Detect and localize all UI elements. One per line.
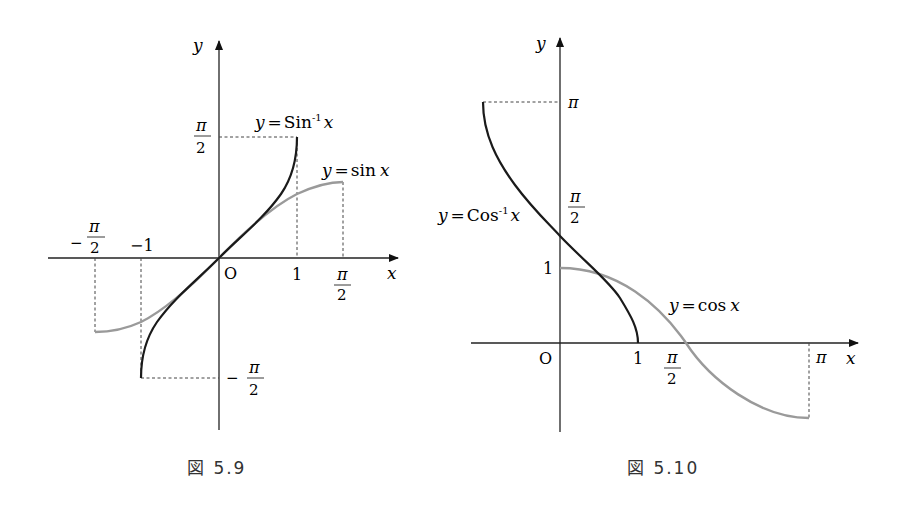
svg-text:π: π: [569, 187, 581, 206]
cos-curve-line: [560, 268, 700, 333]
svg-text:y=cosx: y=cosx: [668, 295, 740, 315]
ytick-pi: π: [567, 93, 579, 112]
caption-figure-5-9: 図 5.9: [187, 458, 246, 478]
ytick-one: 1: [543, 259, 553, 278]
svg-text:π: π: [666, 348, 678, 367]
svg-text:2: 2: [90, 239, 100, 257]
svg-text:2: 2: [249, 381, 259, 399]
arccos-label: y=Cos-1x: [437, 205, 521, 225]
svg-text:y=Cos-1x: y=Cos-1x: [437, 205, 521, 225]
xtick-half-pi: π 2: [334, 265, 351, 304]
x-axis-label: x: [846, 348, 856, 368]
origin-label: O: [539, 349, 552, 368]
ytick-half-pi: π 2: [568, 187, 585, 227]
ytick-neg-half-pi: − π 2: [226, 358, 264, 399]
origin-label: O: [224, 264, 237, 283]
y-axis-label: y: [535, 33, 546, 53]
svg-text:π: π: [88, 217, 100, 236]
svg-text:2: 2: [667, 370, 677, 388]
cos-curve: [560, 268, 809, 381]
xtick-neg-half-pi: − π 2: [70, 217, 105, 257]
figure-5-10: y x O π π 2 1 1 π 2 π y=Cos-1x y=cosx: [437, 33, 858, 432]
xtick-one: 1: [292, 265, 302, 284]
svg-text:2: 2: [196, 139, 206, 157]
sin-label: y=sinx: [321, 160, 390, 180]
figure-5-9: y x O π 2 − π 2 − π 2 −1 1 π 2: [48, 35, 398, 430]
svg-text:y=sinx: y=sinx: [321, 160, 390, 180]
svg-text:π: π: [336, 265, 348, 284]
xtick-half-pi: π 2: [664, 348, 681, 388]
guide-lines: [483, 102, 809, 418]
xtick-one: 1: [633, 349, 643, 368]
svg-text:y=Sin-1x: y=Sin-1x: [254, 112, 334, 132]
xtick-pi: π: [815, 348, 827, 367]
svg-text:2: 2: [570, 209, 580, 227]
caption-figure-5-10: 図 5.10: [627, 458, 699, 478]
cos-label: y=cosx: [668, 295, 740, 315]
arcsin-label: y=Sin-1x: [254, 112, 334, 132]
svg-text:π: π: [248, 358, 260, 377]
svg-text:−: −: [70, 234, 83, 252]
svg-text:−: −: [226, 369, 239, 387]
cos-curve-visible: [560, 268, 684, 323]
svg-text:π: π: [195, 116, 207, 135]
xtick-neg-one: −1: [130, 236, 154, 255]
x-axis-label: x: [387, 263, 397, 283]
ytick-half-pi: π 2: [194, 116, 211, 157]
figure-canvas: y x O π 2 − π 2 − π 2 −1 1 π 2: [0, 0, 899, 507]
svg-text:2: 2: [337, 286, 347, 304]
y-axis-label: y: [192, 35, 203, 55]
cos-curve: [560, 268, 683, 319]
cos-curve: [560, 268, 700, 332]
